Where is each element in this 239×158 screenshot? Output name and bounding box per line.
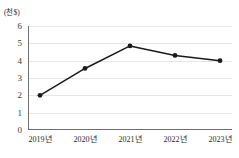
x-axis-tick-label: 2019년 bbox=[29, 135, 52, 145]
data-series-line bbox=[28, 26, 232, 130]
data-point-marker bbox=[173, 53, 178, 58]
series-polyline bbox=[40, 46, 220, 95]
line-chart-figure: (천$) 0123456 2019년2020년2021년2022년2023년 bbox=[0, 0, 239, 158]
y-axis-tick-label: 2 bbox=[18, 91, 23, 100]
x-axis-tick-label: 2021년 bbox=[119, 135, 142, 145]
x-axis-tick-label: 2020년 bbox=[74, 135, 97, 145]
y-axis-unit-label: (천$) bbox=[4, 8, 20, 18]
data-point-marker bbox=[218, 58, 223, 63]
x-axis-tick-label: 2022년 bbox=[164, 135, 187, 145]
data-point-marker bbox=[38, 93, 43, 98]
y-axis-tick-label: 5 bbox=[18, 39, 23, 48]
x-axis-tick-label: 2023년 bbox=[209, 135, 232, 145]
y-axis-tick-label: 0 bbox=[18, 126, 23, 135]
data-point-marker bbox=[128, 44, 133, 49]
y-axis-tick-label: 1 bbox=[18, 108, 23, 117]
data-point-marker bbox=[83, 66, 88, 71]
plot-area: 0123456 2019년2020년2021년2022년2023년 bbox=[28, 26, 232, 130]
y-axis-tick-label: 6 bbox=[18, 22, 23, 31]
y-axis-tick-label: 3 bbox=[18, 74, 23, 83]
series-markers bbox=[38, 44, 223, 98]
y-axis-tick-label: 4 bbox=[18, 56, 23, 65]
